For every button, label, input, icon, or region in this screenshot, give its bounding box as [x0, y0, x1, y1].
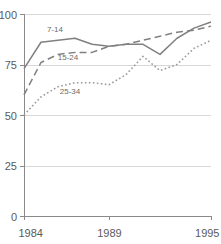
y-axis-ticks: 0255075100: [0, 9, 24, 223]
series-label-25-34: 25-34: [60, 87, 81, 96]
x-tick-label-1984: 1984: [19, 227, 43, 239]
series-line-15-24: [24, 26, 211, 95]
y-tick-label-100: 100: [0, 9, 17, 21]
y-tick-label-75: 75: [5, 59, 17, 71]
series-labels: 7-1415-2425-34: [47, 25, 81, 96]
x-tick-label-1989: 1989: [97, 227, 121, 239]
y-axis: 0255075100: [0, 9, 25, 223]
x-axis: 198419891995: [19, 216, 220, 239]
data-series: [24, 22, 211, 115]
x-axis-ticks: 198419891995: [19, 216, 220, 239]
y-tick-label-0: 0: [11, 211, 17, 223]
gridlines: [24, 15, 211, 167]
line-chart: 0255075100 198419891995 7-1415-2425-34: [0, 0, 221, 244]
series-line-25-34: [24, 40, 211, 115]
y-tick-label-25: 25: [5, 160, 17, 172]
y-tick-label-50: 50: [5, 110, 17, 122]
series-label-15-24: 15-24: [58, 53, 79, 62]
chart-canvas: 0255075100 198419891995 7-1415-2425-34: [0, 0, 221, 244]
series-label-7-14: 7-14: [47, 25, 64, 34]
x-tick-label-1995: 1995: [195, 227, 219, 239]
